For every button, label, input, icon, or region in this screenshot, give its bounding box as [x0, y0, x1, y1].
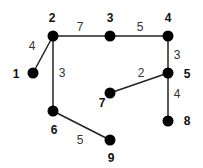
- node-label-1: 1: [13, 67, 20, 81]
- node-label-8: 8: [184, 114, 191, 128]
- edge-1-2: [33, 36, 53, 73]
- edge-weight-2-6: 3: [59, 66, 66, 80]
- node-label-5: 5: [184, 67, 191, 81]
- edge-weight-3-4: 5: [137, 20, 144, 34]
- node-label-2: 2: [49, 11, 56, 25]
- node-2: [48, 31, 59, 42]
- node-label-9: 9: [108, 151, 115, 165]
- node-label-4: 4: [165, 11, 172, 25]
- node-7: [105, 88, 116, 99]
- edge-weight-4-5: 3: [174, 48, 181, 62]
- node-8: [163, 116, 174, 127]
- node-3: [105, 31, 116, 42]
- node-9: [105, 135, 116, 146]
- weighted-tree-diagram: 47533245 123456789: [0, 0, 203, 168]
- nodes-group: [28, 31, 174, 146]
- edge-weight-5-8: 4: [174, 87, 181, 101]
- edge-weight-1-2: 4: [29, 39, 36, 53]
- node-label-3: 3: [107, 11, 114, 25]
- node-1: [28, 68, 39, 79]
- edge-weight-2-3: 7: [77, 20, 84, 34]
- node-5: [163, 68, 174, 79]
- edge-weight-6-9: 5: [77, 133, 84, 147]
- node-4: [163, 31, 174, 42]
- node-label-7: 7: [99, 96, 106, 110]
- node-label-6: 6: [51, 123, 58, 137]
- edge-weight-5-7: 2: [138, 66, 145, 80]
- node-6: [48, 106, 59, 117]
